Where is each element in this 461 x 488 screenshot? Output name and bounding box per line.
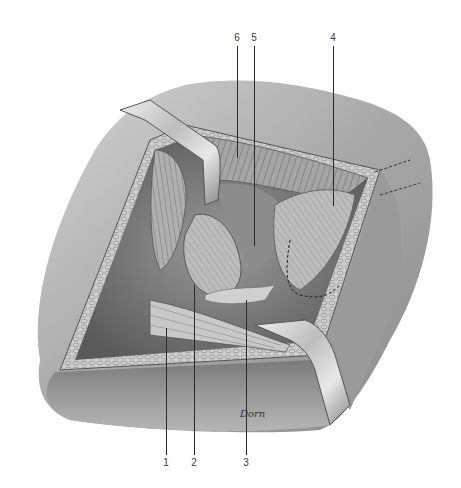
leader-line-5 [254,46,255,246]
label-2: 2 [191,458,197,468]
label-5: 5 [251,33,257,43]
label-1: 1 [163,458,169,468]
label-6: 6 [234,33,240,43]
surgical-field-drawing [0,0,461,488]
leader-line-4 [333,46,334,206]
leader-line-1 [166,328,167,455]
artist-signature: Dorn [240,408,265,419]
leader-line-3 [246,300,247,455]
bottom-skin-flap [47,360,330,431]
leader-line-2 [194,285,195,455]
label-3: 3 [243,458,249,468]
label-4: 4 [330,33,336,43]
anatomical-illustration: 6 5 4 1 2 3 Dorn [0,0,461,488]
leader-line-6 [237,46,238,158]
